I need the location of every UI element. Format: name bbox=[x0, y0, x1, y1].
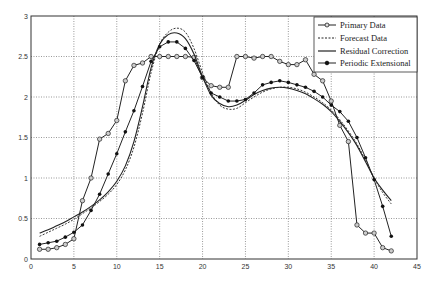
x-tick-label: 15 bbox=[156, 263, 164, 270]
data-point bbox=[235, 54, 239, 58]
y-tick-label: 1.5 bbox=[18, 134, 28, 141]
data-point bbox=[303, 58, 307, 62]
data-point bbox=[287, 81, 291, 85]
y-axis-ticks: 00.511.522.53 bbox=[18, 13, 28, 263]
data-point bbox=[278, 79, 282, 83]
data-point bbox=[218, 85, 222, 89]
data-point bbox=[55, 239, 59, 243]
x-axis-ticks: 051015202530354045 bbox=[29, 263, 421, 270]
x-tick-label: 20 bbox=[199, 263, 207, 270]
data-point bbox=[106, 131, 110, 135]
data-point bbox=[260, 54, 264, 58]
data-point bbox=[355, 136, 359, 140]
data-point bbox=[192, 59, 196, 63]
data-point bbox=[124, 130, 128, 134]
data-point bbox=[329, 103, 333, 107]
data-point bbox=[243, 54, 247, 58]
data-point bbox=[269, 81, 273, 85]
data-point bbox=[321, 95, 325, 99]
data-point bbox=[252, 91, 256, 95]
data-point bbox=[55, 245, 59, 249]
data-point bbox=[175, 40, 179, 44]
data-point bbox=[269, 54, 273, 58]
data-point bbox=[37, 247, 41, 251]
data-point bbox=[64, 235, 68, 239]
data-point bbox=[304, 85, 308, 89]
data-point bbox=[363, 231, 367, 235]
data-point bbox=[278, 59, 282, 63]
data-point bbox=[295, 62, 299, 66]
line-chart: 051015202530354045 00.511.522.53 Primary… bbox=[0, 0, 440, 285]
data-point bbox=[244, 98, 248, 102]
data-point bbox=[184, 47, 188, 51]
data-point bbox=[132, 109, 136, 113]
y-tick-label: 2.5 bbox=[18, 53, 28, 60]
data-point bbox=[346, 139, 350, 143]
data-point bbox=[97, 137, 101, 141]
data-point bbox=[364, 156, 368, 160]
data-point bbox=[320, 79, 324, 83]
data-point bbox=[201, 76, 205, 80]
x-tick-label: 35 bbox=[327, 263, 335, 270]
y-tick-label: 3 bbox=[24, 13, 28, 20]
data-point bbox=[106, 172, 110, 176]
data-point bbox=[98, 192, 102, 196]
data-point bbox=[140, 61, 144, 65]
x-tick-label: 30 bbox=[284, 263, 292, 270]
legend-label: Residual Correction bbox=[340, 46, 409, 56]
series-primary-data bbox=[37, 54, 393, 253]
data-point bbox=[372, 178, 376, 182]
data-point bbox=[149, 60, 153, 64]
legend-label: Forecast Data bbox=[340, 33, 387, 43]
data-point bbox=[72, 237, 76, 241]
data-point bbox=[389, 249, 393, 253]
x-tick-label: 10 bbox=[113, 263, 121, 270]
data-point bbox=[115, 152, 119, 156]
data-point bbox=[209, 83, 213, 87]
data-point bbox=[157, 54, 161, 58]
data-point bbox=[46, 247, 50, 251]
data-point bbox=[63, 242, 67, 246]
data-point bbox=[72, 230, 76, 234]
x-tick-label: 40 bbox=[370, 263, 378, 270]
data-point bbox=[347, 120, 351, 124]
data-point bbox=[235, 99, 239, 103]
data-point bbox=[226, 85, 230, 89]
data-point bbox=[329, 99, 333, 103]
y-tick-label: 0 bbox=[24, 256, 28, 263]
data-point bbox=[46, 241, 50, 245]
data-point bbox=[286, 62, 290, 66]
x-tick-label: 5 bbox=[72, 263, 76, 270]
data-point bbox=[218, 95, 222, 99]
data-point bbox=[123, 79, 127, 83]
filled-dot-marker-icon bbox=[325, 61, 329, 65]
data-point bbox=[89, 176, 93, 180]
data-point bbox=[81, 223, 85, 227]
open-circle-marker-icon bbox=[325, 23, 329, 27]
data-point bbox=[372, 231, 376, 235]
y-tick-label: 2 bbox=[24, 94, 28, 101]
data-point bbox=[132, 63, 136, 67]
y-tick-label: 0.5 bbox=[18, 215, 28, 222]
data-point bbox=[380, 245, 384, 249]
data-point bbox=[166, 54, 170, 58]
data-point bbox=[166, 40, 170, 44]
data-point bbox=[38, 243, 42, 247]
data-point bbox=[312, 72, 316, 76]
data-point bbox=[183, 54, 187, 58]
data-point bbox=[209, 91, 213, 95]
data-point bbox=[355, 223, 359, 227]
data-point bbox=[295, 83, 299, 87]
data-point bbox=[252, 56, 256, 60]
data-point bbox=[115, 118, 119, 122]
legend: Primary Data Forecast Data Residual Corr… bbox=[314, 17, 417, 72]
data-point bbox=[312, 90, 316, 94]
x-tick-label: 0 bbox=[29, 263, 33, 270]
x-tick-label: 25 bbox=[242, 263, 250, 270]
data-point bbox=[381, 205, 385, 209]
data-point bbox=[226, 99, 230, 103]
data-point bbox=[89, 209, 93, 213]
data-point bbox=[261, 83, 265, 87]
data-point bbox=[175, 54, 179, 58]
data-point bbox=[389, 235, 393, 239]
